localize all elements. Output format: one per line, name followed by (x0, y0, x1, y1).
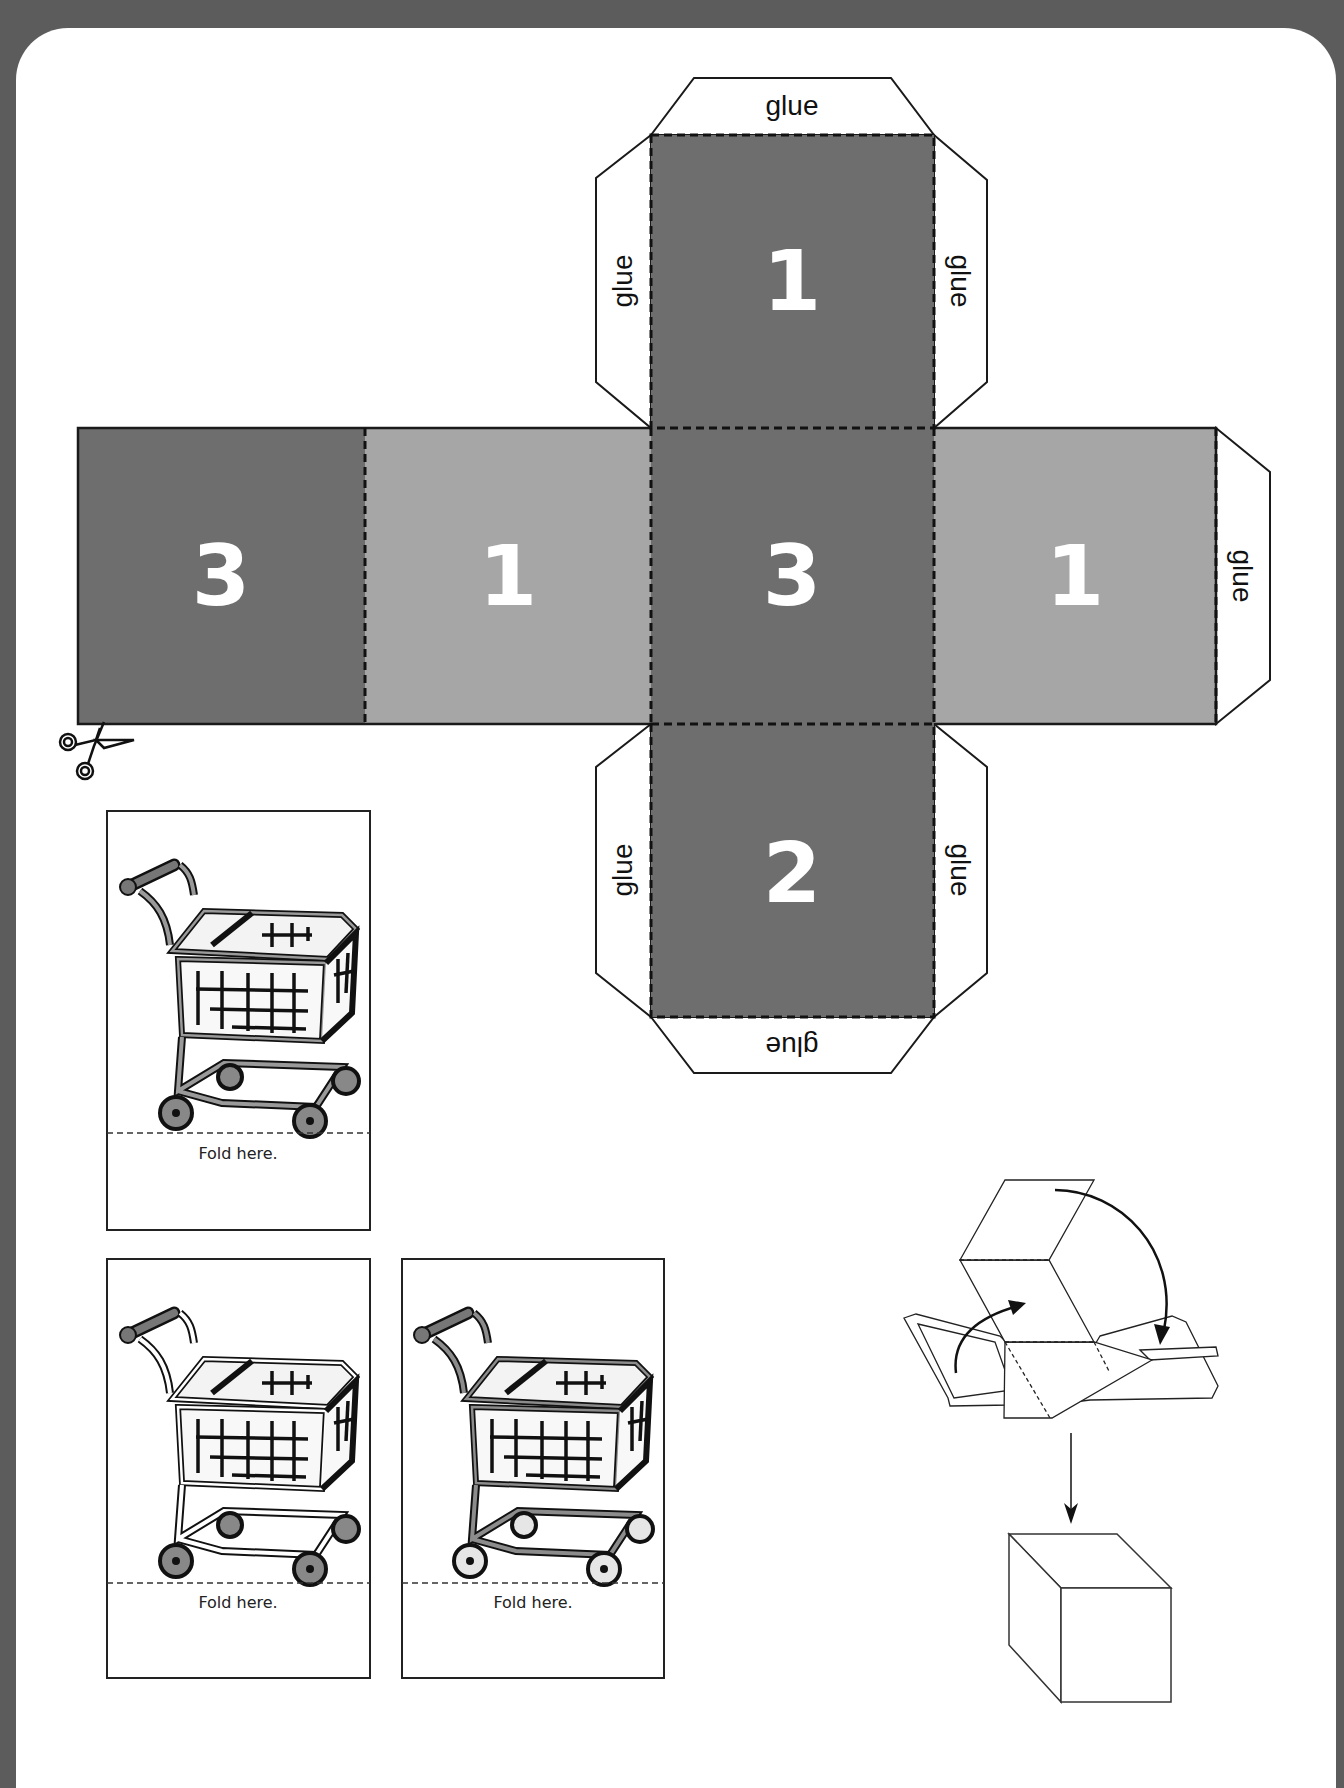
folding-diagram (904, 1180, 1218, 1524)
glue-label: glue (607, 844, 638, 897)
face-number: 1 (1046, 527, 1104, 625)
cart-card: Fold here. (107, 1259, 370, 1678)
cube-icon (1009, 1534, 1171, 1702)
face-number: 1 (763, 232, 821, 330)
face-number: 1 (479, 527, 537, 625)
fold-here-label: Fold here. (198, 1144, 277, 1163)
fold-here-label: Fold here. (198, 1593, 277, 1612)
cart-card: Fold here. (107, 811, 370, 1230)
fold-here-label: Fold here. (493, 1593, 572, 1612)
cart-card: Fold here. (402, 1259, 664, 1678)
scissors-icon (60, 722, 134, 779)
glue-label: glue (945, 844, 976, 897)
face-number: 3 (192, 527, 250, 625)
face-number: 2 (763, 824, 821, 922)
glue-label: glue (766, 90, 819, 121)
glue-label: glue (607, 255, 638, 308)
glue-label: glue (1227, 550, 1258, 603)
glue-label: glue (766, 1031, 819, 1062)
face-number: 3 (763, 527, 821, 625)
glue-label: glue (945, 255, 976, 308)
